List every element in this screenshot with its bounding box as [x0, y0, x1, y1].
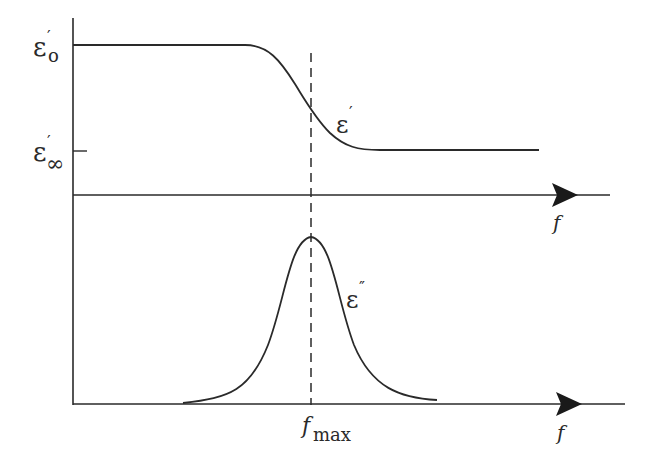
svg-text:max: max: [313, 424, 351, 445]
svg-text:ε: ε: [33, 137, 46, 167]
top-axis-f-label: f: [551, 211, 564, 235]
svg-text:∞: ∞: [46, 151, 64, 176]
svg-text:ε: ε: [346, 286, 358, 314]
eps-inf-label: ε ′ ∞: [33, 132, 64, 176]
eps-prime-curve-label: ε ′: [336, 103, 353, 139]
svg-text:′: ′: [47, 27, 51, 46]
svg-text:ε: ε: [336, 111, 348, 139]
svg-text:′: ′: [349, 103, 353, 122]
loss-factor-curve: [183, 237, 437, 403]
eps0-label: ε ′ o: [33, 27, 59, 66]
bottom-axis-f-label: f: [555, 421, 568, 445]
dielectric-relaxation-diagram: ε ′ o ε ′ ∞ ε ′ ε ″ f f f max: [0, 0, 651, 457]
svg-text:o: o: [48, 45, 59, 66]
fmax-label: f max: [300, 413, 351, 445]
real-permittivity-curve: [73, 45, 539, 150]
svg-text:″: ″: [359, 278, 365, 297]
eps-double-prime-curve-label: ε ″: [346, 278, 365, 314]
svg-text:f: f: [300, 413, 314, 438]
svg-text:ε: ε: [33, 32, 46, 62]
svg-text:′: ′: [47, 132, 51, 151]
